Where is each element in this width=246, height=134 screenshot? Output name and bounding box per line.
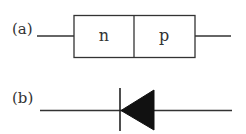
diode-triangle-icon xyxy=(121,90,154,130)
diagram-canvas: (a) n p (b) xyxy=(0,0,246,134)
p-region-label: p xyxy=(159,26,169,45)
part-b-label: (b) xyxy=(12,89,33,107)
part-a-label: (a) xyxy=(12,20,33,38)
n-region-label: n xyxy=(99,26,109,45)
part-b: (b) xyxy=(12,88,232,131)
part-a: (a) n p xyxy=(12,16,231,58)
